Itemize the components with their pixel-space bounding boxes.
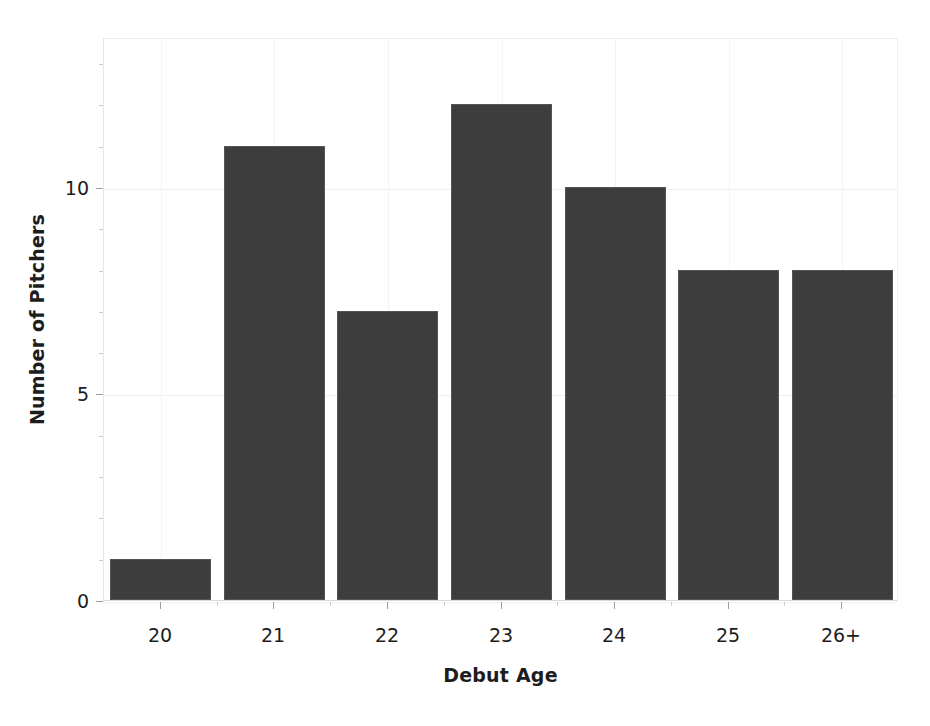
x-tick-mark xyxy=(160,602,161,609)
x-tick-label: 24 xyxy=(574,624,654,646)
x-tick-minor xyxy=(330,602,331,606)
x-tick-mark xyxy=(728,602,729,609)
x-tick-minor xyxy=(217,602,218,606)
bar xyxy=(451,104,552,600)
gridline-vertical xyxy=(161,39,162,600)
x-tick-mark xyxy=(614,602,615,609)
x-tick-label: 21 xyxy=(233,624,313,646)
x-tick-mark xyxy=(387,602,388,609)
x-tick-label: 22 xyxy=(347,624,427,646)
y-tick-mark xyxy=(96,188,103,189)
y-tick-label: 5 xyxy=(29,383,89,405)
x-tick-mark xyxy=(273,602,274,609)
bar xyxy=(565,187,666,600)
y-tick-label: 0 xyxy=(29,590,89,612)
bar xyxy=(678,270,779,600)
x-tick-mark xyxy=(841,602,842,609)
plot-area xyxy=(103,38,898,601)
x-tick-minor xyxy=(444,602,445,606)
bar xyxy=(224,146,325,600)
x-tick-minor xyxy=(784,602,785,606)
x-tick-minor xyxy=(671,602,672,606)
y-axis-ticks: 0510 xyxy=(33,38,103,601)
x-axis-ticks: 20212223242526+ xyxy=(103,602,898,662)
x-tick-mark xyxy=(501,602,502,609)
x-tick-label: 20 xyxy=(120,624,200,646)
y-tick-label: 10 xyxy=(29,177,89,199)
chart-figure: Number of Pitchers 0510 20212223242526+ … xyxy=(0,0,930,726)
bar xyxy=(110,559,211,600)
bar xyxy=(337,311,438,600)
x-tick-label: 25 xyxy=(688,624,768,646)
x-tick-minor xyxy=(557,602,558,606)
x-tick-label: 23 xyxy=(461,624,541,646)
y-tick-mark xyxy=(96,601,103,602)
bar xyxy=(792,270,893,600)
y-tick-mark xyxy=(96,394,103,395)
x-tick-label: 26+ xyxy=(801,624,881,646)
x-axis-title: Debut Age xyxy=(103,664,898,686)
